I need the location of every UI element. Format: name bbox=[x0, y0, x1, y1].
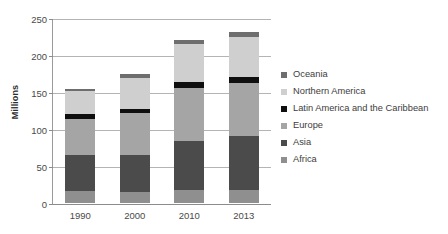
x-axis-tick-label: 2010 bbox=[166, 210, 212, 221]
bar-segment bbox=[229, 77, 259, 84]
legend-item-label: Asia bbox=[293, 138, 311, 147]
legend-item[interactable]: Latin America and the Caribbean bbox=[281, 100, 446, 117]
y-axis-tick bbox=[49, 167, 53, 168]
bar-1990[interactable]: 1990 bbox=[65, 89, 95, 203]
bar-2013[interactable]: 2013 bbox=[229, 32, 259, 203]
y-axis-tick-label: 200 bbox=[31, 51, 47, 62]
legend-swatch-icon bbox=[281, 157, 287, 163]
y-axis-tick bbox=[49, 130, 53, 131]
bar-segment bbox=[229, 37, 259, 76]
bar-segment bbox=[65, 155, 95, 191]
bar-segment bbox=[229, 190, 259, 203]
y-axis-tick-label: 250 bbox=[31, 14, 47, 25]
legend-item[interactable]: Northern America bbox=[281, 83, 446, 100]
bar-segment bbox=[229, 136, 259, 189]
y-axis-title-label: Millions bbox=[10, 85, 20, 119]
bar-segment bbox=[174, 190, 204, 203]
chart-legend: OceaniaNorthern AmericaLatin America and… bbox=[281, 66, 446, 168]
bar-2000[interactable]: 2000 bbox=[120, 74, 150, 203]
bar-segment bbox=[120, 78, 150, 109]
legend-item-label: Africa bbox=[293, 155, 317, 164]
y-axis-tick-label: 0 bbox=[42, 199, 47, 210]
bar-segment bbox=[120, 113, 150, 154]
x-axis-baseline bbox=[53, 204, 271, 205]
legend-swatch-icon bbox=[281, 106, 287, 112]
y-axis-tick bbox=[49, 204, 53, 205]
y-axis-tick bbox=[49, 56, 53, 57]
legend-item[interactable]: Oceania bbox=[281, 66, 446, 83]
x-axis-tick-label: 1990 bbox=[57, 210, 103, 221]
legend-item[interactable]: Africa bbox=[281, 151, 446, 168]
bar-segment bbox=[65, 191, 95, 203]
y-axis-tick-label: 100 bbox=[31, 125, 47, 136]
legend-swatch-icon bbox=[281, 123, 287, 129]
bar-segment bbox=[120, 192, 150, 203]
y-axis-tick-label: 150 bbox=[31, 88, 47, 99]
legend-item-label: Latin America and the Caribbean bbox=[293, 104, 428, 113]
legend-swatch-icon bbox=[281, 89, 287, 95]
y-axis-tick-label: 50 bbox=[36, 162, 47, 173]
legend-swatch-icon bbox=[281, 72, 287, 78]
bar-segment bbox=[65, 91, 95, 113]
legend-item[interactable]: Europe bbox=[281, 117, 446, 134]
gridline bbox=[53, 19, 271, 20]
bar-segment bbox=[174, 44, 204, 82]
stacked-bar-chart: Millions 050100150200250 199020002010201… bbox=[0, 0, 448, 234]
bar-segment bbox=[229, 83, 259, 136]
legend-item[interactable]: Asia bbox=[281, 134, 446, 151]
legend-item-label: Europe bbox=[293, 121, 323, 130]
bar-segment bbox=[120, 155, 150, 192]
y-axis-title: Millions bbox=[6, 0, 24, 204]
y-axis-tick bbox=[49, 19, 53, 20]
legend-swatch-icon bbox=[281, 140, 287, 146]
bar-segment bbox=[65, 119, 95, 155]
x-axis-tick-label: 2000 bbox=[112, 210, 158, 221]
y-axis-tick bbox=[49, 93, 53, 94]
bar-segment bbox=[174, 88, 204, 141]
bar-2010[interactable]: 2010 bbox=[174, 40, 204, 204]
bar-segment bbox=[174, 141, 204, 191]
x-axis-tick-label: 2013 bbox=[221, 210, 267, 221]
legend-item-label: Northern America bbox=[293, 87, 365, 96]
legend-item-label: Oceania bbox=[293, 70, 328, 79]
plot-area: 050100150200250 1990200020102013 bbox=[52, 19, 270, 204]
